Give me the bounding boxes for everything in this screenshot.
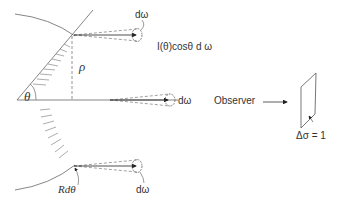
- d-omega-middle-label: dω: [178, 96, 191, 106]
- intensity-label: I(θ)cosθ d ω: [157, 42, 212, 52]
- diagram-canvas: [0, 0, 342, 207]
- r-dtheta-label: Rdθ: [58, 184, 76, 195]
- cone-middle: [110, 94, 175, 106]
- hatch-marks-lower: [40, 109, 68, 158]
- sphere-arc-top: [15, 14, 75, 36]
- observer-label: Observer: [214, 96, 255, 106]
- d-omega-bottom-label: dω: [136, 185, 149, 195]
- cone-bottom: [74, 160, 144, 184]
- d-omega-top-label: dω: [135, 10, 148, 20]
- angled-radius-line: [17, 10, 93, 100]
- theta-label: θ: [24, 90, 30, 103]
- theta-arc: [30, 84, 36, 100]
- cone-top: [74, 20, 144, 42]
- hatch-marks-upper: [33, 44, 70, 85]
- delta-sigma-label: Δσ = 1: [296, 131, 326, 141]
- rho-label: ρ: [79, 60, 85, 73]
- delta-sigma-surface: [301, 73, 316, 128]
